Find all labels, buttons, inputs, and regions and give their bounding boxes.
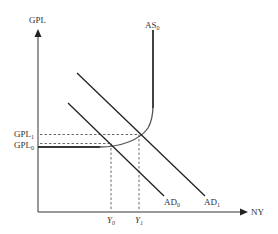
gpl0-label: GPL0 [14,140,34,151]
ad0-curve [68,103,164,196]
x-axis-arrow-icon [240,209,248,216]
ad-as-diagram: GPL NY AS0 AD0 AD1 GPL1 GPL0 Y0 Y1 [0,0,278,234]
y-axis-arrow-icon [35,29,42,37]
dashed-guides [40,135,139,212]
x-axis [38,209,248,216]
y0-label: Y0 [107,215,115,226]
gpl1-label: GPL1 [14,129,34,140]
ad0-label: AD0 [164,197,180,208]
y-axis [35,29,42,212]
as0-label: AS0 [145,20,160,31]
x-axis-label: NY [251,207,264,217]
y1-label: Y1 [135,215,143,226]
y-axis-label: GPL [29,15,46,25]
ad1-label: AD1 [204,197,220,208]
